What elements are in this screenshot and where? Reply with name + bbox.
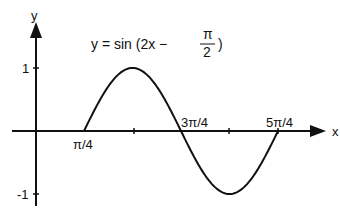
x-tick-label-5pi4: 5π/4 [266,115,293,130]
chart-title-denominator: 2 [203,44,211,60]
y-axis-arrow-icon [30,22,42,38]
y-axis-label: y [31,8,38,23]
y-tick-label-neg1: -1 [17,187,29,202]
x-tick-label-3pi4: 3π/4 [181,115,208,130]
chart-title-suffix: ) [218,36,223,52]
x-axis-label: x [332,124,339,139]
chart-title-prefix: y = sin (2x − [91,36,167,52]
chart-title-numerator: π [203,26,213,42]
x-axis-arrow-icon [310,125,326,137]
x-tick-label-pi4: π/4 [73,137,93,152]
sine-chart: y x 1 -1 π/4 3π/4 5π/4 y = sin (2x − π 2… [0,0,340,218]
y-tick-label-1: 1 [22,61,29,76]
